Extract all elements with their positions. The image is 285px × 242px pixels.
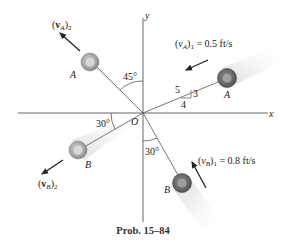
disk-a-before — [218, 69, 237, 88]
slope-rise-label: 3 — [193, 88, 198, 99]
motion-trails — [72, 48, 282, 228]
disk-b-after — [69, 141, 87, 159]
disk-a-after — [81, 53, 99, 71]
arrow-vb2 — [42, 160, 63, 174]
angle-label-a2: 45° — [123, 71, 137, 82]
slope-hyp-label: 5 — [175, 84, 180, 95]
x-axis-label: x — [268, 108, 274, 119]
y-axis-label: y — [144, 10, 150, 21]
velocity-label-vb2: (vB)2 — [38, 178, 58, 191]
arrow-va2 — [60, 33, 80, 51]
line-b1 — [143, 113, 178, 175]
disk-b-before — [173, 174, 192, 193]
disk-b-after-label: B — [85, 159, 91, 170]
velocity-label-va1: (vA)1 = 0.5 ft/s — [175, 38, 232, 51]
line-b2 — [84, 113, 143, 147]
angle-label-b2: 30° — [96, 118, 110, 129]
arrow-va1 — [186, 60, 208, 70]
angle-arc-a2 — [120, 81, 143, 90]
velocity-arrows — [42, 33, 208, 188]
velocity-label-va2: (vA)2 — [52, 19, 72, 32]
slope-run-label: 4 — [181, 99, 186, 110]
collision-diagram: y x O 5 3 4 45° 30° 30° A — [0, 0, 285, 242]
velocity-label-vb1: (vB)1 = 0.8 ft/s — [198, 155, 255, 168]
disk-a-before-label: A — [223, 89, 231, 100]
disk-b-before-label: B — [164, 184, 170, 195]
problem-caption: Prob. 15–84 — [116, 225, 170, 236]
angle-label-b1: 30° — [145, 146, 159, 157]
disk-a-after-label: A — [69, 69, 77, 80]
angle-arc-b1 — [143, 138, 157, 141]
slope-triangle: 5 3 4 — [175, 84, 198, 110]
